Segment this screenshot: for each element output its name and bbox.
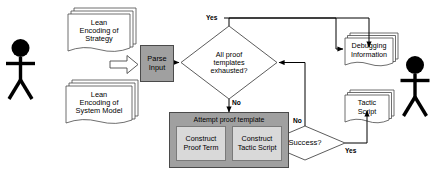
doc-line: Script: [358, 108, 376, 116]
input-block-arrow-icon: [110, 56, 138, 74]
process-line: Input: [149, 63, 165, 72]
doc-line: Debugging: [352, 42, 387, 50]
doc-line: Encoding of: [79, 99, 118, 107]
user-actor-right-icon: [401, 56, 430, 116]
doc-line: Tactic: [358, 99, 376, 107]
step-line: Tactic: [238, 143, 256, 152]
parse-input-process[interactable]: Parse Input: [140, 45, 174, 82]
step-line: Proof: [183, 143, 200, 152]
doc-line: Lean: [91, 19, 107, 27]
step-line: Script: [258, 143, 276, 152]
doc-line: Encoding of: [79, 27, 118, 35]
construct-proof-term-step[interactable]: Construct Proof Term: [176, 126, 226, 161]
tactic-script-output[interactable]: Tactic Script: [345, 95, 389, 120]
lean-encoding-strategy[interactable]: Lean Encoding of Strategy: [68, 14, 130, 48]
lean-encoding-system-model[interactable]: Lean Encoding of System Model: [66, 86, 132, 120]
branch-label-no-success: No: [293, 117, 302, 124]
all-proof-templates-exhausted-shape: [181, 26, 277, 99]
branch-label-yes-exhausted: Yes: [206, 14, 217, 21]
subprocess-caption: Attempt proof template: [170, 116, 288, 124]
construct-tactic-script-step[interactable]: Construct Tactic Script: [232, 126, 282, 161]
doc-line: Information: [351, 51, 387, 59]
doc-line: System Model: [76, 107, 123, 115]
branch-label-no-exhausted: No: [232, 99, 241, 106]
doc-line: Lean: [91, 91, 107, 99]
doc-line: Strategy: [85, 35, 113, 43]
step-line: Term: [203, 143, 219, 152]
flowchart-canvas: Lean Encoding of Strategy Lean Encoding …: [0, 0, 442, 177]
branch-label-yes-success: Yes: [345, 147, 356, 154]
user-actor-left-icon: [6, 39, 35, 99]
debugging-information-output[interactable]: Debugging Information: [345, 38, 393, 63]
